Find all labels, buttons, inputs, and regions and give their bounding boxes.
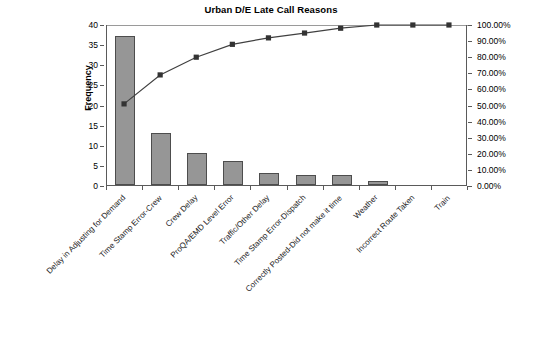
x-axis-category-label: Time Stamp Error-Dispatch [233, 193, 308, 268]
x-axis-category-label: Weather [352, 193, 380, 221]
x-axis-category-label: Time Stamp Error-Crew [97, 193, 163, 259]
x-axis-category-label: Train [433, 193, 452, 212]
x-axis-category-label: ProQA/EMD Level Error [169, 193, 236, 260]
x-axis-labels: Delay in Adjusting for DemandTime Stamp … [0, 0, 542, 338]
x-axis-category-label: Crew Delay [164, 193, 200, 229]
pareto-chart: Urban D/E Late Call Reasons Frequency 05… [0, 0, 542, 338]
